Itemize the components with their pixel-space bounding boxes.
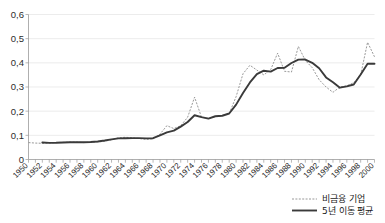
series-line-0 [29, 42, 375, 143]
x-axis-tick-labels: 1950195219541956195819601962196419661968… [11, 161, 376, 180]
series-line-1 [42, 60, 374, 143]
y-tick-label-2: 0,2 [11, 106, 24, 117]
y-tick-label-3: 0,3 [11, 81, 24, 92]
legend-label-1: 5년 이동 평균 [322, 206, 373, 216]
y-tick-label-4: 0,4 [11, 57, 24, 68]
data-series [29, 42, 375, 143]
y-axis-tick-labels: 00,10,20,30,40,50,6 [11, 9, 29, 165]
y-tick-label-1: 0,1 [11, 130, 24, 141]
x-tick-label-2000: 2000 [357, 161, 376, 180]
chart-container: 00,10,20,30,40,50,6 19501952195419561958… [0, 0, 385, 223]
legend-label-0: 비금융 기업 [322, 194, 365, 204]
chart-legend: 비금융 기업5년 이동 평균 [292, 194, 373, 216]
line-chart: 00,10,20,30,40,50,6 19501952195419561958… [0, 0, 385, 223]
y-tick-label-6: 0,6 [11, 9, 24, 20]
y-tick-label-5: 0,5 [11, 33, 24, 44]
